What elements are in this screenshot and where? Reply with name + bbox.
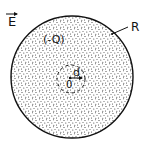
charge-label: (-Q) <box>43 34 65 45</box>
center-label: 0 <box>66 80 72 90</box>
field-label: E <box>8 15 16 28</box>
radius-leader-line <box>112 27 128 34</box>
sphere-diagram <box>0 0 144 146</box>
displacement-label: d <box>73 67 80 78</box>
charged-sphere <box>11 16 133 138</box>
radius-label: R <box>131 21 139 33</box>
